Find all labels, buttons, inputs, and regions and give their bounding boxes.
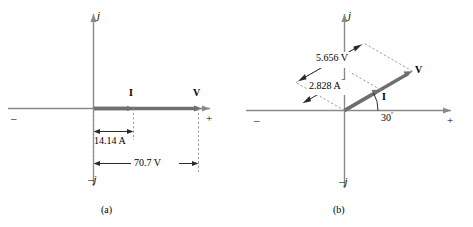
axis-label-neg-j-a: –j <box>88 174 97 185</box>
axis-label-neg-j-b: –j <box>339 176 348 187</box>
dim-label-voltage-b: 5.656 V <box>316 53 348 63</box>
panel-a: j –j + – I V 14.14 A 70.7 V (a) <box>0 0 236 227</box>
panel-b-canvas <box>236 0 473 227</box>
dim-label-current-a: 14.14 A <box>94 136 126 146</box>
real-axis-arrowhead-a <box>202 105 210 111</box>
angle-arc-b <box>374 93 379 111</box>
phasor-label-i-b: I <box>382 92 386 102</box>
dim-arrow-right-voltage-a <box>192 161 199 166</box>
perp-dashed-v-tip-b <box>364 43 413 71</box>
panel-b: j –j + – V I 5.656 V 2.828 A 30º (b) <box>236 0 473 227</box>
phasor-label-v-a: V <box>193 88 200 98</box>
phasor-label-i-a: I <box>129 88 133 98</box>
axis-label-plus-b: + <box>447 115 453 126</box>
dim-arrow-start-voltage-b <box>298 74 307 81</box>
phasor-label-v-b: V <box>415 65 422 75</box>
real-axis-arrowhead-b <box>443 107 451 113</box>
caption-a: (a) <box>101 204 112 215</box>
dim-arrow-right-current-a <box>127 129 134 134</box>
dim-arrow-left-voltage-a <box>94 161 101 166</box>
axis-label-minus-a: – <box>11 113 17 124</box>
phasor-i-b <box>345 92 377 110</box>
caption-b: (b) <box>333 204 345 215</box>
phasor-figure: j –j + – I V 14.14 A 70.7 V (a) <box>0 0 473 227</box>
dim-arrow-end-voltage-b <box>353 44 362 51</box>
phasor-i-arrowhead-a <box>127 106 134 111</box>
dim-label-voltage-a: 70.7 V <box>134 158 161 168</box>
dim-arrow-start-current-b <box>303 96 312 103</box>
panel-a-canvas <box>0 0 236 227</box>
axis-label-j-a: j <box>97 10 100 21</box>
axis-label-plus-a: + <box>206 113 212 124</box>
dim-label-current-b: 2.828 A <box>309 81 341 91</box>
dim-arrow-left-current-a <box>94 129 101 134</box>
axis-label-j-b: j <box>348 10 351 21</box>
axis-label-minus-b: – <box>254 115 260 126</box>
angle-unit-b: º <box>391 111 393 119</box>
angle-label-b: 30º <box>381 112 393 123</box>
imag-axis-arrowhead-b <box>341 14 347 22</box>
imag-axis-arrowhead-a <box>90 14 96 22</box>
angle-value-b: 30 <box>381 112 391 123</box>
